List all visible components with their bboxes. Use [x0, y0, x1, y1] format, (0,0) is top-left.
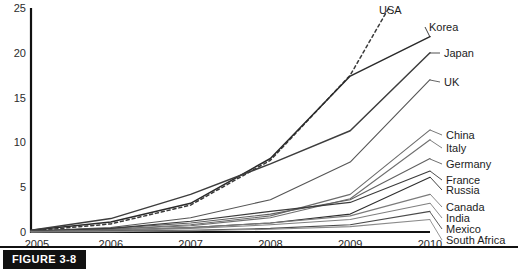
label-leader-lines	[425, 27, 442, 240]
line-chart: 0510152025 200520062007200820092010 USAK…	[0, 0, 518, 273]
x-tick-label: 2005	[25, 238, 49, 250]
y-tick-label: 0	[20, 226, 26, 238]
leader-line-china	[430, 130, 442, 135]
y-axis-tick-labels: 0510152025	[14, 2, 26, 238]
figure-3-8: 0510152025 200520062007200820092010 USAK…	[0, 0, 518, 273]
x-tick-label: 2010	[418, 238, 442, 250]
figure-caption: FIGURE 3-8	[3, 250, 86, 269]
series-label-china: China	[446, 129, 476, 141]
x-tick-label: 2009	[338, 238, 362, 250]
series-line-italy	[31, 140, 430, 231]
y-tick-label: 15	[14, 92, 26, 104]
x-axis-tick-labels: 200520062007200820092010	[25, 238, 442, 250]
series-label-russia: Russia	[446, 184, 481, 196]
series-label-usa: USA	[379, 4, 402, 16]
series-label-uk: UK	[444, 76, 460, 88]
x-tick-label: 2008	[258, 238, 282, 250]
series-line-usa	[31, 8, 389, 231]
series-label-south-africa: South Africa	[446, 234, 506, 246]
y-tick-label: 5	[20, 181, 26, 193]
series-line-uk	[31, 80, 430, 231]
leader-line-italy	[430, 140, 442, 148]
chart-series-lines	[31, 8, 430, 232]
y-tick-label: 25	[14, 2, 26, 14]
y-tick-label: 20	[14, 47, 26, 59]
leader-line-south-africa	[430, 220, 442, 240]
caption-rule	[0, 246, 518, 248]
leader-line-uk	[430, 80, 440, 82]
series-label-germany: Germany	[446, 158, 492, 170]
x-tick-label: 2006	[99, 238, 123, 250]
series-label-italy: Italy	[446, 142, 467, 154]
x-tick-label: 2007	[178, 238, 202, 250]
y-tick-label: 10	[14, 136, 26, 148]
leader-line-germany	[430, 159, 442, 164]
series-line-india	[31, 203, 430, 231]
series-label-japan: Japan	[444, 47, 474, 59]
series-line-korea	[31, 37, 430, 231]
leader-line-mexico	[430, 212, 442, 229]
series-label-korea: Korea	[429, 21, 459, 33]
